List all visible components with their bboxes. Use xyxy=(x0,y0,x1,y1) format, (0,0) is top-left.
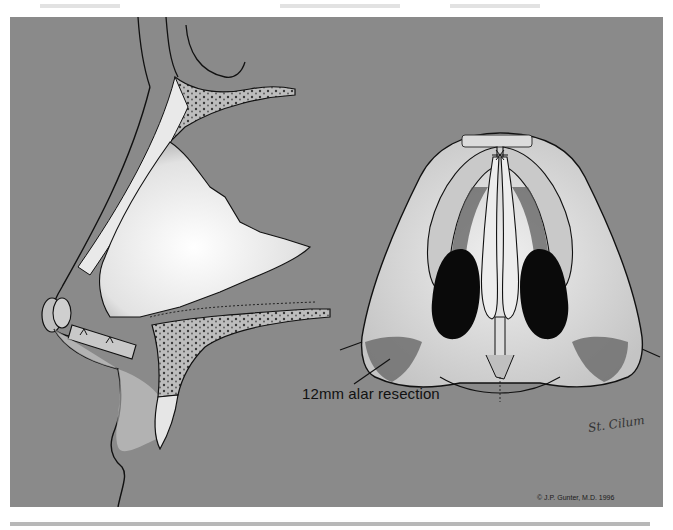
illustration-panel: 12mm alar resection St. Cilum © J.P. Gun… xyxy=(10,17,663,507)
clipped-text-fragment xyxy=(280,4,400,8)
clipped-text-fragment xyxy=(10,522,650,526)
clipped-text-fragment xyxy=(40,4,120,8)
nose-illustration xyxy=(10,17,663,507)
copyright-notice: © J.P. Gunter, M.D. 1996 xyxy=(537,494,614,501)
basal-view xyxy=(340,133,660,402)
clipped-text-fragment xyxy=(450,4,540,8)
lateral-view xyxy=(42,17,330,507)
alar-resection-label: 12mm alar resection xyxy=(302,385,440,402)
